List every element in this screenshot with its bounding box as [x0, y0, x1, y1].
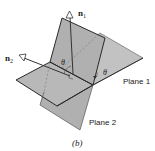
normal-1-arrowhead-icon: [66, 11, 73, 18]
figure-caption: (b): [72, 138, 83, 148]
two-planes-diagram: n1 n2 θ θ Plane 1 Plane 2 (b): [0, 0, 155, 151]
normal-1-label: n1: [78, 8, 86, 19]
plane-1-label: Plane 1: [123, 77, 151, 86]
normal-2-label: n2: [5, 53, 13, 64]
theta-label-top: θ: [61, 58, 65, 67]
theta-label-right: θ: [103, 68, 107, 77]
normal-2-arrowhead-icon: [19, 54, 26, 61]
plane-2-label: Plane 2: [89, 118, 117, 127]
